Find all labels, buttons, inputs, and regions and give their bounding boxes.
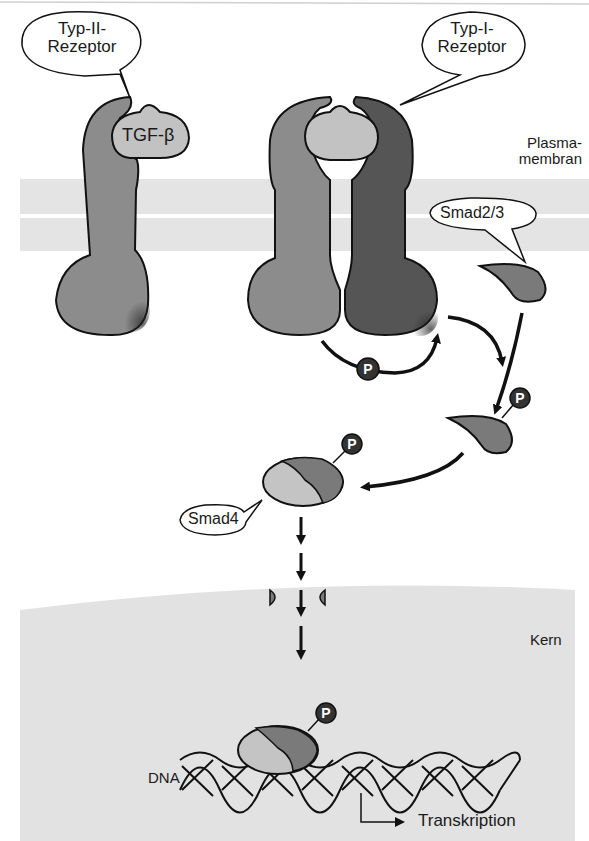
tgf-beta-pathway-diagram: P P P P bbox=[0, 0, 589, 841]
complex-formation-arrow bbox=[365, 453, 463, 487]
transcription-label: Transkription bbox=[418, 812, 516, 830]
phosphate-1-label: P bbox=[363, 361, 372, 377]
plasma-membrane-label: Plasma- membran bbox=[508, 135, 582, 167]
smad4-label: Smad4 bbox=[188, 511, 239, 528]
nucleus-label: Kern bbox=[530, 632, 562, 648]
nucleus bbox=[20, 586, 575, 841]
dna-label: DNA bbox=[148, 770, 180, 786]
activation-arrow bbox=[448, 317, 502, 362]
phosphate-4-label: P bbox=[321, 705, 330, 721]
type2-receptor-label: Typ-II- Rezeptor bbox=[22, 20, 142, 56]
phosphate-2-label: P bbox=[515, 390, 524, 406]
phosphate-3-label: P bbox=[347, 436, 356, 452]
tgf-beta-label: TGF-β bbox=[122, 126, 174, 145]
smad23-label: Smad2/3 bbox=[440, 205, 504, 222]
type1-receptor-label: Typ-I- Rezeptor bbox=[420, 20, 524, 56]
smad23-protein bbox=[480, 264, 546, 302]
top-border bbox=[0, 2, 589, 4]
